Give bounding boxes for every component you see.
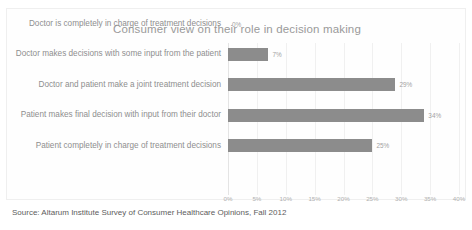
category-label: Doctor makes decisions with some input f… (15, 49, 221, 60)
category-label: Patient completely in charge of treatmen… (15, 141, 221, 152)
x-tick-label: 15% (308, 195, 320, 202)
bar-row: Doctor and patient make a joint treatmen… (7, 70, 467, 100)
bar-value-label: 34% (428, 112, 441, 119)
bar-wrapper: 7% (228, 39, 459, 69)
bar[interactable] (228, 48, 268, 61)
bar-wrapper: 34% (228, 100, 459, 130)
bar-row: Doctor is completely in charge of treatm… (7, 9, 467, 39)
x-tick-label: 0% (224, 195, 233, 202)
bar[interactable] (228, 139, 372, 152)
bar-value-label: 7% (272, 51, 281, 58)
bar-value-label: 25% (376, 142, 389, 149)
chart-container: Consumer view on their role in decision … (6, 8, 466, 200)
bar-value-label: 29% (399, 81, 412, 88)
bar-wrapper: 25% (228, 131, 459, 161)
x-tick-label: 25% (366, 195, 378, 202)
x-tick-label: 30% (395, 195, 407, 202)
category-label: Patient makes final decision with input … (15, 110, 221, 121)
x-tick-label: 35% (424, 195, 436, 202)
category-label: Doctor is completely in charge of treatm… (15, 19, 221, 30)
x-tick-label: 20% (337, 195, 349, 202)
x-tick-label: 40% (453, 195, 465, 202)
bar-row: Patient completely in charge of treatmen… (7, 131, 467, 161)
bar-value-label: 0% (232, 21, 241, 28)
bar[interactable] (228, 78, 395, 91)
bar-row: Doctor makes decisions with some input f… (7, 39, 467, 69)
bar-row: Patient makes final decision with input … (7, 100, 467, 130)
bar-wrapper: 29% (228, 70, 459, 100)
category-label: Doctor and patient make a joint treatmen… (15, 80, 221, 91)
slide-canvas: Consumer view on their role in decision … (0, 0, 472, 230)
bar-rows: Doctor is completely in charge of treatm… (7, 9, 467, 161)
x-tick-label: 5% (252, 195, 261, 202)
bar[interactable] (228, 109, 424, 122)
source-note: Source: Altarum Institute Survey of Cons… (12, 208, 286, 217)
bar-wrapper: 0% (228, 9, 459, 39)
x-tick-label: 10% (280, 195, 292, 202)
x-axis: 0%5%10%15%20%25%30%35%40% (228, 195, 459, 207)
